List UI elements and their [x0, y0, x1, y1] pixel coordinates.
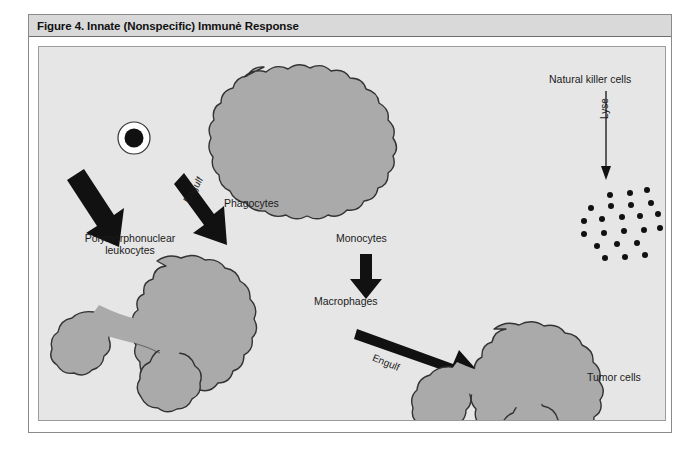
macrophage-cell-shape: [412, 322, 604, 420]
polymorphonuclear-cell-shape: [51, 255, 257, 411]
label-polymorphonuclear-leukocytes: Polymorphonuclear leukocytes: [65, 232, 195, 256]
tumor-cell-cluster: [581, 187, 663, 261]
figure-frame: Figure 4. Innate (Nonspecific) Immunė Re…: [28, 14, 672, 433]
phagocyte-nucleus-core: [125, 129, 144, 148]
label-polymorphonuclear-line2: leukocytes: [65, 244, 195, 256]
figure-title-bar: Figure 4. Innate (Nonspecific) Immunė Re…: [29, 15, 671, 37]
label-monocytes: Monocytes: [336, 232, 387, 244]
arrow-monocytes-to-macrophages: [350, 254, 382, 299]
label-lyse: Lyse: [599, 98, 610, 119]
label-macrophages: Macrophages: [314, 295, 378, 307]
label-natural-killer-cells: Natural killer cells: [549, 73, 631, 85]
figure-title: Figure 4. Innate (Nonspecific) Immunė Re…: [29, 20, 299, 32]
label-phagocytes: Phagocytes: [224, 197, 279, 209]
label-polymorphonuclear-line1: Polymorphonuclear: [65, 232, 195, 244]
illustration-panel: Phagocytes Polymorphonuclear leukocytes …: [38, 46, 666, 421]
label-tumor-cells: Tumor cells: [587, 371, 641, 383]
phagocyte-cell-shape: [118, 65, 397, 219]
